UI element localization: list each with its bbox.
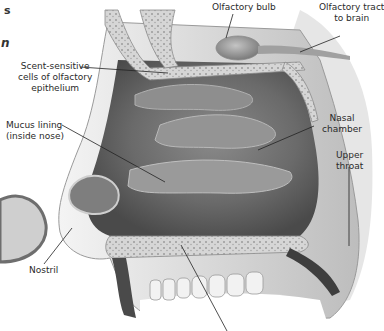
title-fragment-2: n <box>1 36 10 50</box>
nostril-vestibule <box>69 176 119 214</box>
label-mucus-lining: Mucus lining (inside nose) <box>6 120 64 142</box>
label-olfactory-bulb: Olfactory bulb <box>212 2 276 13</box>
label-scent-sensitive-cells: Scent-sensitive cells of olfactory epith… <box>18 61 92 94</box>
label-scent-cells-line2: cells of olfactory <box>18 72 92 83</box>
label-nasal-chamber-line2: chamber <box>322 124 362 135</box>
title-fragment-1: s <box>4 4 11 17</box>
label-upper-throat: Upper throat <box>336 150 363 172</box>
label-olfactory-tract-line1: Olfactory tract <box>319 2 384 13</box>
label-mucus-line1: Mucus lining <box>6 120 64 131</box>
label-mucus-line2: (inside nose) <box>6 131 64 142</box>
label-upper-throat-line1: Upper <box>336 150 363 161</box>
olfactory-bulb <box>216 36 260 60</box>
label-scent-cells-line1: Scent-sensitive <box>18 61 92 72</box>
label-olfactory-tract: Olfactory tract to brain <box>319 2 384 24</box>
label-nasal-chamber-line1: Nasal <box>322 113 362 124</box>
label-nostril: Nostril <box>29 265 58 276</box>
label-olfactory-tract-line2: to brain <box>319 13 384 24</box>
label-upper-throat-line2: throat <box>336 161 363 172</box>
label-scent-cells-line3: epithelium <box>18 83 92 94</box>
face-fragment <box>0 196 46 262</box>
label-nasal-chamber: Nasal chamber <box>322 113 362 135</box>
